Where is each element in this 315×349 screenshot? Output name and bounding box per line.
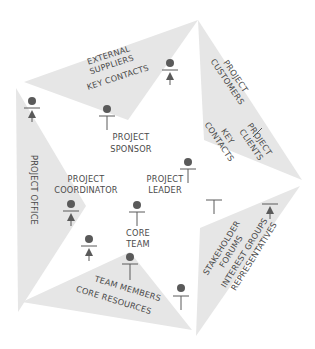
segment-project-customers: [198, 20, 302, 180]
person-arrow-icon-lower-left: [81, 235, 97, 261]
project-leader-label: PROJECT LEADER: [147, 174, 185, 195]
svg-text:PROJECT: PROJECT: [147, 174, 185, 184]
person-icon-stakeholder: [206, 200, 222, 214]
stakeholder-diagram: EXTERNAL SUPPLIERS KEY CONTACTS PROJECT …: [0, 0, 315, 349]
svg-text:PROJECT: PROJECT: [68, 174, 106, 184]
core-team-label: CORE TEAM: [125, 228, 150, 249]
person-icon-bottom: [173, 284, 189, 310]
svg-text:SPONSOR: SPONSOR: [110, 144, 152, 154]
svg-text:COORDINATOR: COORDINATOR: [54, 185, 118, 195]
project-office-label: PROJECT OFFICE: [29, 155, 39, 225]
person-icon-core-team-top: [129, 201, 145, 226]
svg-text:PROJECT OFFICE: PROJECT OFFICE: [29, 155, 39, 225]
svg-text:CORE: CORE: [126, 228, 150, 238]
svg-text:TEAM: TEAM: [125, 239, 150, 249]
svg-text:LEADER: LEADER: [148, 185, 182, 195]
svg-text:PROJECT: PROJECT: [113, 132, 151, 142]
project-sponsor-label: PROJECT SPONSOR: [110, 132, 152, 154]
